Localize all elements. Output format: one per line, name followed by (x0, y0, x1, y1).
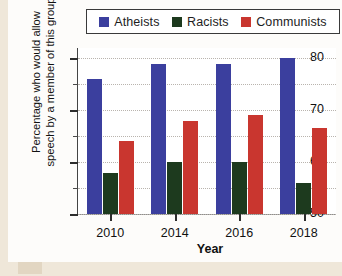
bar-communists-2016 (248, 115, 263, 214)
x-axis-title: Year (78, 242, 342, 256)
legend-swatch-communists (241, 17, 251, 27)
legend-label-communists: Communists (256, 15, 326, 29)
legend-item-communists[interactable]: Communists (241, 15, 326, 29)
x-tick-label-2010: 2010 (80, 226, 140, 240)
legend-label-atheists: Atheists (114, 15, 159, 29)
chart-legend: Atheists Racists Communists (86, 9, 340, 34)
chart-panel: Atheists Racists Communists Percentage w… (8, 0, 342, 262)
legend-swatch-atheists (99, 17, 109, 27)
y-axis-title: Percentage who would allow speech by a m… (29, 0, 57, 170)
x-tick (304, 214, 306, 221)
bar-racists-2010 (103, 173, 118, 215)
legend-label-racists: Racists (187, 15, 229, 29)
y-tick-major (70, 110, 78, 112)
x-tick (239, 214, 241, 221)
gridline-minor (78, 84, 336, 85)
x-tick (175, 214, 177, 221)
bar-atheists-2014 (151, 64, 166, 214)
legend-item-atheists[interactable]: Atheists (99, 15, 159, 29)
x-tick-label-2014: 2014 (145, 226, 205, 240)
x-tick-label-2018: 2018 (274, 226, 334, 240)
bar-racists-2018 (296, 183, 311, 214)
gridline-minor (78, 136, 336, 137)
x-tick-label-2016: 2016 (209, 226, 269, 240)
bar-communists-2010 (119, 141, 134, 214)
chart-figure: Atheists Racists Communists Percentage w… (0, 0, 342, 276)
y-axis-line (77, 48, 78, 214)
x-tick (110, 214, 112, 221)
y-tick-major (70, 214, 78, 216)
bar-atheists-2010 (87, 79, 102, 214)
bar-racists-2016 (232, 162, 247, 214)
y-tick-major (70, 58, 78, 60)
scan-corner-block-bottom-left (18, 262, 42, 274)
legend-item-racists[interactable]: Racists (172, 15, 229, 29)
plot-area: 506070802010201420162018 (78, 48, 336, 214)
bar-racists-2014 (167, 162, 182, 214)
bar-communists-2014 (183, 121, 198, 214)
bar-communists-2018 (312, 128, 327, 214)
bar-atheists-2016 (216, 64, 231, 214)
legend-swatch-racists (172, 17, 182, 27)
y-tick-major (70, 162, 78, 164)
bar-atheists-2018 (280, 58, 295, 214)
